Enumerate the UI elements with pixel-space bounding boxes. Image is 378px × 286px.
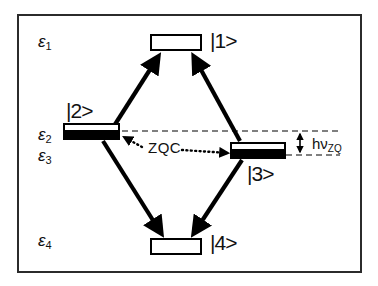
hv-zq-label: hνZQ bbox=[312, 136, 342, 154]
state-label-2: |2> bbox=[66, 100, 92, 121]
state-level-box-2 bbox=[63, 123, 120, 140]
zqc-label: ZQC bbox=[148, 140, 181, 155]
energy-label-epsilon-3: ε3 bbox=[38, 147, 52, 166]
state-level-box-3 bbox=[230, 142, 286, 159]
hv-symbol: hν bbox=[312, 135, 328, 152]
epsilon-subscript: 1 bbox=[45, 40, 51, 52]
energy-level-diagram: ε1 ε2 ε3 ε4 |1> |2> |3> |4> ZQC hνZQ bbox=[0, 0, 378, 286]
energy-label-epsilon-2: ε2 bbox=[38, 126, 52, 145]
state-level-box-4 bbox=[150, 238, 202, 255]
state-label-3: |3> bbox=[247, 163, 273, 184]
epsilon-subscript: 4 bbox=[45, 239, 51, 251]
state-label-4: |4> bbox=[210, 232, 236, 253]
epsilon-subscript: 2 bbox=[45, 133, 51, 145]
hv-subscript: ZQ bbox=[328, 143, 342, 154]
figure-border bbox=[17, 14, 362, 273]
energy-label-epsilon-1: ε1 bbox=[38, 33, 52, 52]
energy-label-epsilon-4: ε4 bbox=[38, 232, 52, 251]
state-level-box-1 bbox=[150, 34, 202, 51]
state-label-1: |1> bbox=[210, 30, 236, 51]
epsilon-subscript: 3 bbox=[45, 154, 51, 166]
